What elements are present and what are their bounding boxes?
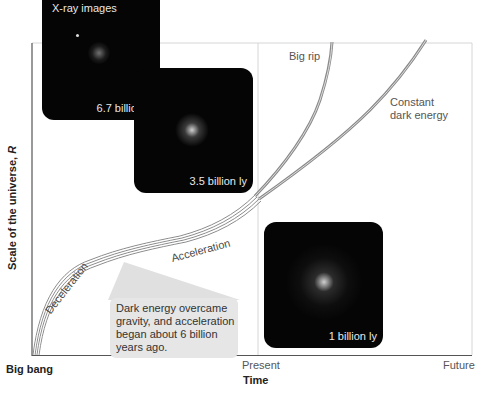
y-axis-label: Scale of the universe, R xyxy=(6,146,18,270)
xray-card-1: 1 billion ly xyxy=(264,222,383,348)
xray-card-3-5: 3.5 billion ly xyxy=(134,68,253,193)
constant-dark-energy-label-2: dark energy xyxy=(390,109,448,121)
callout-line-3: began about 6 billion xyxy=(116,328,238,341)
card-caption: 3.5 billion ly xyxy=(190,175,247,187)
callout-box: Dark energy overcame gravity, and accele… xyxy=(110,298,238,358)
star-point xyxy=(76,34,79,37)
callout-pointer xyxy=(108,262,240,300)
x-tick-present: Present xyxy=(242,359,280,371)
x-tick-big-bang: Big bang xyxy=(6,363,53,375)
card-caption: 1 billion ly xyxy=(329,330,377,342)
x-tick-future: Future xyxy=(443,359,475,371)
callout-line-1: Dark energy overcame xyxy=(116,302,238,315)
cluster-glow xyxy=(88,42,110,64)
cluster-glow xyxy=(175,113,209,147)
y-axis-label-text: Scale of the universe, xyxy=(6,154,18,270)
x-axis-label: Time xyxy=(243,374,268,386)
xray-images-title: X-ray images xyxy=(52,2,117,14)
callout-line-4: years ago. xyxy=(116,341,238,354)
cluster-glow xyxy=(286,244,362,320)
y-axis-variable: R xyxy=(6,146,18,154)
big-rip-label: Big rip xyxy=(289,50,320,62)
callout-line-2: gravity, and acceleration xyxy=(116,315,238,328)
constant-dark-energy-label-1: Constant xyxy=(390,96,434,108)
